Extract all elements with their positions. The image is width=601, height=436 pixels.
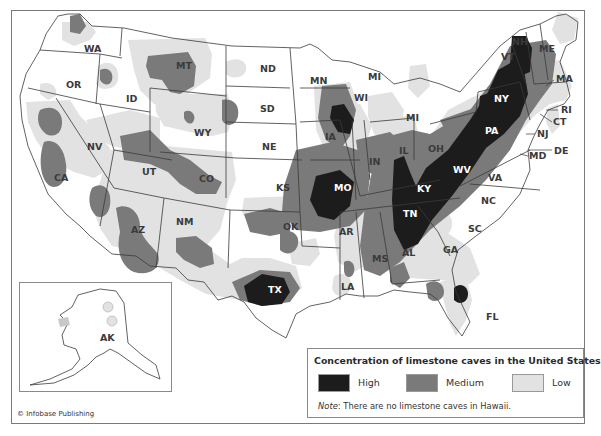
- label-ks: KS: [276, 182, 290, 193]
- label-ia: IA: [325, 131, 337, 142]
- label-in: IN: [369, 156, 381, 167]
- label-wy: WY: [194, 127, 211, 138]
- legend-swatch-high: [318, 374, 350, 392]
- label-wi: WI: [354, 92, 368, 103]
- label-mt: MT: [176, 60, 192, 71]
- label-ak: AK: [100, 332, 115, 343]
- label-mi-lower: MI: [406, 112, 419, 123]
- label-nm: NM: [176, 216, 193, 227]
- label-pa: PA: [485, 125, 499, 136]
- label-mo: MO: [334, 182, 352, 193]
- label-vt: VT: [501, 51, 515, 62]
- label-ne: NE: [262, 141, 276, 152]
- label-co: CO: [199, 173, 214, 184]
- legend-label-low: Low: [552, 377, 571, 388]
- legend-title: Concentration of limestone caves in the …: [314, 355, 601, 366]
- legend-note: Note: There are no limestone caves in Ha…: [318, 401, 511, 411]
- label-ma: MA: [556, 73, 573, 84]
- label-id: ID: [126, 93, 138, 104]
- label-nd: ND: [260, 63, 276, 74]
- legend: Concentration of limestone caves in the …: [307, 348, 584, 418]
- label-wa: WA: [84, 43, 102, 54]
- label-al: AL: [402, 247, 415, 258]
- label-ri: RI: [561, 104, 572, 115]
- label-az: AZ: [131, 224, 145, 235]
- label-or: OR: [66, 79, 82, 90]
- alaska-inset: AK: [19, 282, 172, 392]
- alaska-map: AK: [20, 283, 171, 391]
- label-ca: CA: [54, 172, 69, 183]
- legend-label-medium: Medium: [446, 377, 484, 388]
- label-mn: MN: [310, 75, 327, 86]
- label-ms: MS: [372, 253, 388, 264]
- label-ga: GA: [443, 244, 459, 255]
- label-ky: KY: [417, 183, 431, 194]
- legend-swatch-low: [512, 374, 544, 392]
- label-sc: SC: [468, 223, 482, 234]
- label-oh: OH: [428, 143, 444, 154]
- label-ar: AR: [339, 226, 354, 237]
- label-ok: OK: [283, 221, 299, 232]
- label-tn: TN: [403, 208, 417, 219]
- label-wv: WV: [453, 164, 471, 175]
- label-nh: NH: [512, 36, 528, 47]
- label-sd: SD: [260, 103, 275, 114]
- label-ny: NY: [494, 93, 509, 104]
- label-fl: FL: [486, 311, 499, 322]
- legend-items: High Medium Low: [318, 374, 580, 392]
- label-md: MD: [529, 150, 546, 161]
- legend-swatch-medium: [406, 374, 438, 392]
- label-nv: NV: [87, 141, 103, 152]
- label-ut: UT: [142, 166, 157, 177]
- label-de: DE: [554, 145, 568, 156]
- label-il: IL: [399, 145, 409, 156]
- label-ct: CT: [553, 116, 567, 127]
- label-nc: NC: [481, 195, 496, 206]
- legend-label-high: High: [358, 377, 380, 388]
- label-va: VA: [488, 172, 503, 183]
- note-text: : There are no limestone caves in Hawaii…: [338, 401, 511, 411]
- note-label: Note: [318, 401, 338, 411]
- publisher-credit: © Infobase Publishing: [17, 410, 94, 418]
- label-mi-upper: MI: [368, 71, 381, 82]
- label-tx: TX: [268, 284, 282, 295]
- label-la: LA: [341, 281, 355, 292]
- label-nj: NJ: [537, 128, 549, 139]
- label-me: ME: [539, 43, 555, 54]
